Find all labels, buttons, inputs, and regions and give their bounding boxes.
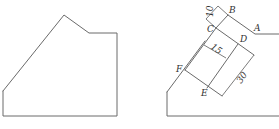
right-shape [167,6,279,116]
line-c-b [216,15,228,28]
label-d: D [239,34,247,44]
dim-30-value: 30 [234,70,249,85]
label-c: C [207,24,214,34]
left-shape [3,15,117,116]
label-b: B [228,5,236,15]
label-a: A [253,23,261,33]
label-f: F [175,64,183,74]
diagram-canvas: B A C D F E 10 15 30 [0,0,279,129]
right-shape-bottom [167,92,279,116]
label-e: E [200,88,208,98]
right-shape-left-slant-lower [167,41,205,92]
left-shape-outline [3,15,117,116]
dim-10-ext-top [218,6,228,15]
dim-15-value: 15 [209,41,224,56]
dim-10-value: 10 [205,5,215,17]
